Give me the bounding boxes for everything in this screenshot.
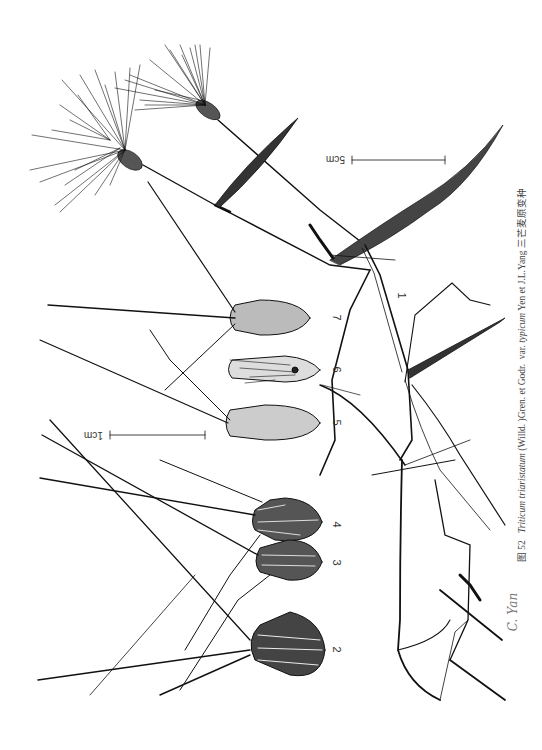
spikelet-6 [229, 356, 321, 383]
label-part-5: 5 [331, 419, 342, 425]
label-part-4: 4 [331, 521, 342, 527]
var-label: var. [517, 345, 527, 359]
scale-bar-1cm [110, 431, 205, 439]
label-part-3: 3 [331, 559, 342, 565]
botanical-plate [0, 0, 542, 750]
label-part-1: 1 [396, 292, 407, 298]
scale-label-5cm: 5cm [326, 154, 345, 164]
label-part-7: 7 [331, 314, 342, 320]
label-part-6: 6 [331, 366, 342, 372]
label-part-2: 2 [331, 646, 342, 652]
chinese-name: 三芒麦原变种 [517, 188, 527, 248]
variety-authority: Yen et J.L.Yang [517, 250, 527, 310]
spikelet-5 [40, 330, 320, 440]
spike-lower [30, 65, 146, 212]
scale-label-1cm: 1cm [84, 430, 103, 440]
spike-upper [115, 45, 223, 124]
variety-name: typicum [517, 313, 527, 343]
scale-bar-5cm [352, 156, 445, 164]
figure-number: 图 52 [517, 540, 527, 562]
species-authority: (Willd. )Gren. et Godr. [517, 364, 527, 451]
species-name: Triticum triaristatum [517, 453, 527, 533]
figure-caption: 图 52 Triticum triaristatum (Willd. )Gren… [514, 75, 528, 675]
